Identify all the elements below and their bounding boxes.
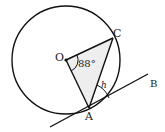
label-o: O xyxy=(55,51,64,64)
angle-label-o: 88° xyxy=(78,58,96,69)
center-point-o xyxy=(64,58,67,61)
label-c: C xyxy=(113,27,121,40)
label-a: A xyxy=(84,110,94,123)
tangent-line-ab xyxy=(50,74,148,127)
angle-label-h: h xyxy=(101,80,107,90)
label-b: B xyxy=(150,78,157,89)
geometry-diagram: O C A B 88° h xyxy=(0,0,165,132)
